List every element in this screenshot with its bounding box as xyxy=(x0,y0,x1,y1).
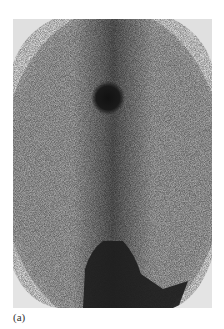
scan-graphic xyxy=(13,19,212,308)
scintigraphy-image xyxy=(13,19,212,308)
figure-caption: (a) xyxy=(13,311,25,323)
